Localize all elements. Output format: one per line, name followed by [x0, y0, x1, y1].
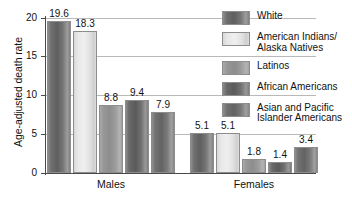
bar-value-males-white: 19.6: [47, 8, 71, 19]
y-tick-label-15: 15: [17, 50, 37, 61]
legend-swatch-african-americans: [222, 82, 250, 96]
legend-item-african-americans: African Americans: [222, 81, 352, 96]
legend-label-american-indians: American Indians/ Alaska Natives: [257, 31, 337, 54]
legend-label-african-americans: African Americans: [257, 81, 338, 93]
bar-males-asian-pacific-islander: [151, 112, 175, 173]
bar-males-african-americans: [125, 100, 149, 173]
bar-value-males-asian-pacific-islander: 7.9: [151, 99, 175, 110]
legend-swatch-asian-pacific-islander: [222, 103, 250, 117]
legend-swatch-american-indians: [222, 32, 250, 46]
bar-value-females-white: 5.1: [190, 120, 214, 131]
y-tick-label-10: 10: [17, 89, 37, 100]
bar-females-white: [190, 133, 214, 173]
legend-item-white: White: [222, 10, 352, 25]
legend-swatch-latinos: [222, 61, 250, 75]
bar-value-females-latinos: 1.8: [242, 146, 266, 157]
bar-males-white: [47, 21, 71, 173]
legend-label-asian-pacific-islander: Asian and Pacific Islander Americans: [257, 102, 342, 125]
bar-value-males-latinos: 8.8: [99, 92, 123, 103]
bar-value-males-african-americans: 9.4: [125, 87, 149, 98]
bar-females-asian-pacific-islander: [294, 147, 318, 173]
y-tick-label-0: 0: [17, 167, 37, 178]
y-tick-label-5: 5: [17, 128, 37, 139]
bar-males-american-indians: [73, 31, 97, 173]
tick-mark-15: [41, 56, 45, 57]
group-label-females: Females: [219, 178, 289, 190]
legend-item-american-indians: American Indians/ Alaska Natives: [222, 31, 352, 54]
x-axis-line: [45, 173, 316, 174]
bar-chart: Age-adjusted death rate 20 15 10 5 0 19.…: [0, 0, 352, 221]
legend-swatch-white: [222, 11, 250, 25]
tick-mark-20: [41, 18, 45, 19]
bar-value-males-american-indians: 18.3: [73, 18, 97, 29]
tick-mark-10: [41, 95, 45, 96]
bar-males-latinos: [99, 105, 123, 173]
bar-value-females-african-americans: 1.4: [268, 149, 292, 160]
bar-value-females-asian-pacific-islander: 3.4: [294, 134, 318, 145]
tick-mark-0: [41, 173, 45, 174]
y-tick-label-20: 20: [17, 12, 37, 23]
legend-label-latinos: Latinos: [257, 60, 289, 72]
bar-females-african-americans: [268, 162, 292, 173]
group-label-males: Males: [76, 178, 146, 190]
legend-label-white: White: [257, 10, 283, 22]
legend-item-latinos: Latinos: [222, 60, 352, 75]
legend-item-asian-pacific-islander: Asian and Pacific Islander Americans: [222, 102, 352, 125]
legend: White American Indians/ Alaska Natives L…: [222, 10, 352, 130]
bar-females-latinos: [242, 159, 266, 173]
bar-females-american-indians: [216, 133, 240, 173]
tick-mark-5: [41, 134, 45, 135]
